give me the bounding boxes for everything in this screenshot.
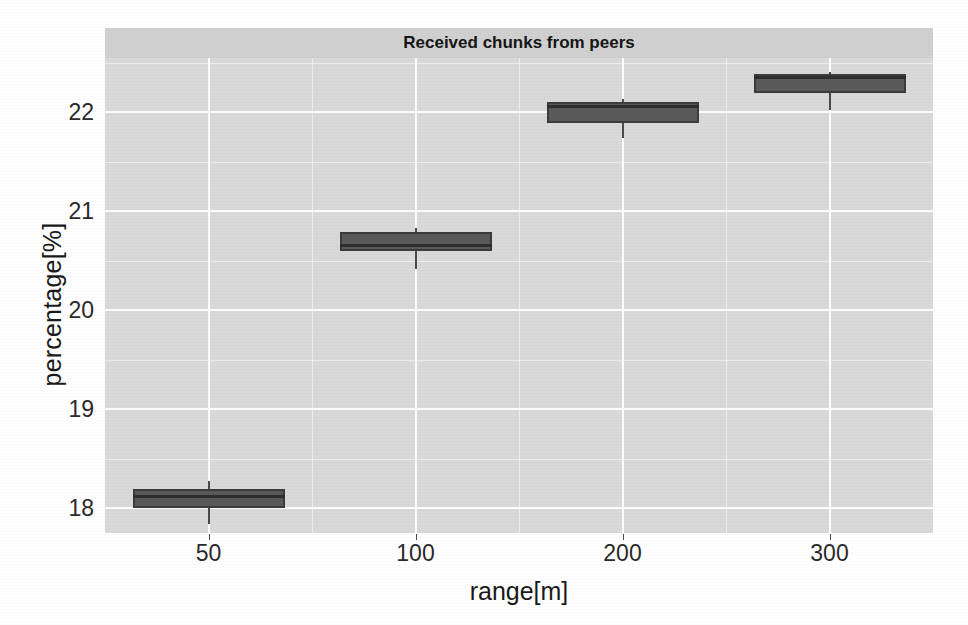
panel-strip: Received chunks from peers	[105, 28, 933, 59]
y-tick-label: 20	[34, 297, 94, 324]
gridline-v-minor	[726, 58, 727, 533]
x-tick-mark	[209, 534, 210, 540]
whisker-upper	[208, 481, 210, 490]
box-iqr	[340, 232, 492, 251]
gridline-v-major	[829, 58, 831, 533]
whisker-lower	[415, 251, 417, 269]
whisker-lower	[622, 123, 624, 138]
x-tick-label: 300	[770, 540, 890, 567]
boxplot-figure: percentage[%] 1819202122 Received chunks…	[0, 0, 968, 625]
x-tick-label: 50	[149, 540, 269, 567]
gridline-v-major	[415, 58, 417, 533]
chart-title: Received chunks from peers	[105, 28, 933, 58]
x-tick-mark	[416, 534, 417, 540]
y-tick-label: 19	[34, 396, 94, 423]
y-tick-label: 21	[34, 198, 94, 225]
median-line	[133, 495, 285, 498]
plot-area	[105, 58, 933, 533]
median-line	[754, 76, 906, 79]
whisker-lower	[208, 508, 210, 524]
x-tick-label: 200	[563, 540, 683, 567]
plot-panel: Received chunks from peers	[105, 28, 933, 533]
x-axis-title: range[m]	[105, 577, 933, 606]
box-iqr	[133, 489, 285, 508]
x-tick-mark	[623, 534, 624, 540]
gridline-v-minor	[312, 58, 313, 533]
x-tick-label: 100	[356, 540, 476, 567]
median-line	[340, 244, 492, 247]
median-line	[547, 105, 699, 108]
y-axis-ticks: 1819202122	[26, 0, 94, 625]
gridline-v-minor	[519, 58, 520, 533]
y-tick-label: 18	[34, 495, 94, 522]
y-tick-label: 22	[34, 99, 94, 126]
x-tick-mark	[830, 534, 831, 540]
whisker-lower	[829, 93, 831, 111]
gridline-v-major	[208, 58, 210, 533]
